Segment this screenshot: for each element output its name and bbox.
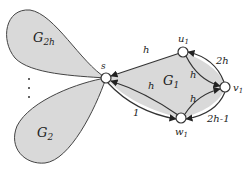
ellipsis-dot — [28, 87, 30, 89]
edge-label-u1-v1: h — [190, 69, 196, 80]
node-v1-label: v1 — [233, 82, 243, 95]
region-g2h — [7, 10, 106, 78]
edge-label-w1-s-upper: h — [148, 80, 154, 91]
edge-label-v1-u1: 2h — [215, 55, 229, 66]
region-g2 — [15, 78, 106, 163]
node-u1-label: u1 — [178, 33, 189, 46]
edge-label-v1-w1: 2h-1 — [206, 113, 230, 124]
edge-label-u1-s: h — [143, 44, 149, 55]
graph-diagram: G2h G2 G1 s u1 v1 w1 h h 1 h 2h h 2h-1 — [0, 0, 247, 171]
node-s-label: s — [101, 61, 106, 71]
ellipsis-dot — [28, 96, 30, 98]
ellipsis-dot — [28, 78, 30, 80]
node-w1 — [176, 113, 186, 123]
node-s — [101, 73, 111, 83]
node-w1-label: w1 — [175, 126, 188, 139]
edge-label-s-w1-lower: 1 — [133, 107, 139, 118]
node-u1 — [178, 47, 188, 57]
edge-label-w1-v1: h — [190, 93, 196, 104]
node-v1 — [220, 82, 230, 92]
